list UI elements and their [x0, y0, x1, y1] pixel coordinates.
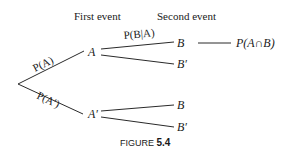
- result-P-A-and-B: P(A∩B): [235, 36, 275, 50]
- edge-A-to-B: [101, 42, 174, 49]
- node-B-prime-upper: B′: [177, 57, 187, 71]
- header-second-event: Second event: [157, 10, 216, 22]
- caption-number: 5.4: [157, 137, 171, 148]
- node-A: A: [87, 45, 96, 59]
- label-P-A-prime: P(A′): [35, 89, 62, 111]
- node-A-prime: A′: [87, 107, 98, 121]
- edge-A-to-B-prime: [101, 55, 174, 64]
- edge-root-to-A: [18, 51, 84, 84]
- node-B-lower: B: [177, 98, 185, 112]
- header-first-event: First event: [74, 10, 121, 22]
- edge-A-prime-to-B: [101, 105, 174, 111]
- node-B-prime-lower: B′: [177, 120, 187, 134]
- probability-tree-diagram: First event Second event P(A) P(A′) A A′…: [0, 0, 289, 158]
- caption-prefix: FIGURE: [120, 138, 157, 148]
- edge-A-prime-to-B-prime: [101, 117, 174, 127]
- label-P-B-given-A: P(B|A): [123, 26, 155, 42]
- node-B-upper: B: [177, 36, 185, 50]
- figure-caption: FIGURE 5.4: [120, 137, 171, 148]
